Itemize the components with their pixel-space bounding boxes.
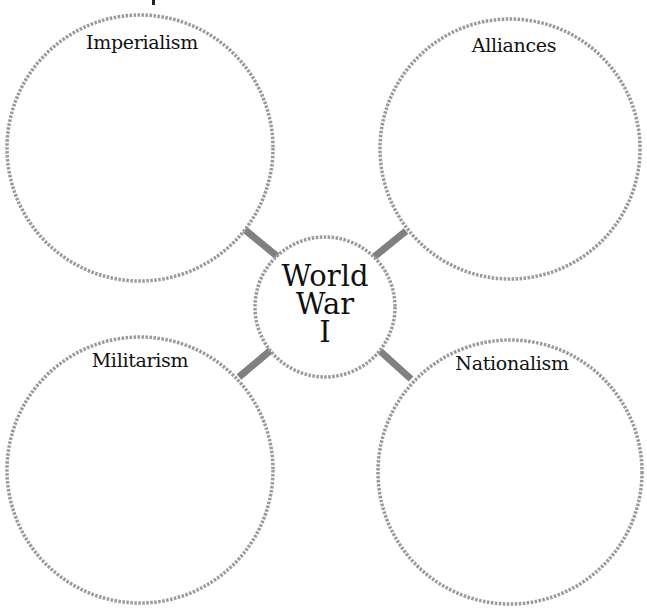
alliances-circle[interactable] [380,19,640,279]
alliances-label: Alliances [472,34,556,56]
connector-nationalism [380,351,411,379]
connector-imperialism [244,229,278,257]
imperialism-label: Imperialism [86,31,198,53]
center-line-1: World [282,262,369,290]
center-line-2: War [282,290,369,318]
connector-alliances [374,231,406,257]
connector-militarism [239,350,271,377]
nationalism-label: Nationalism [455,352,568,374]
center-line-3: I [282,318,369,346]
center-topic: World War I [282,262,369,346]
imperialism-circle[interactable] [7,15,273,281]
militarism-circle[interactable] [7,337,273,603]
nationalism-circle[interactable] [378,340,642,604]
militarism-label: Militarism [92,349,189,371]
